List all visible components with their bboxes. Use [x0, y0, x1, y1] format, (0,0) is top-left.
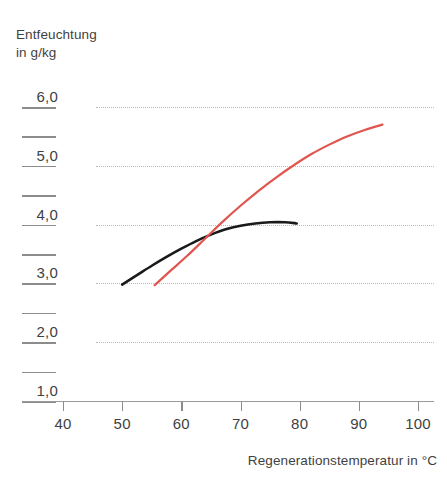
plot-area [0, 0, 447, 490]
series-line-red [155, 125, 383, 286]
series-line-black [122, 222, 297, 284]
chart-container: Entfeuchtung in g/kg Regenerationstemper… [0, 0, 447, 490]
